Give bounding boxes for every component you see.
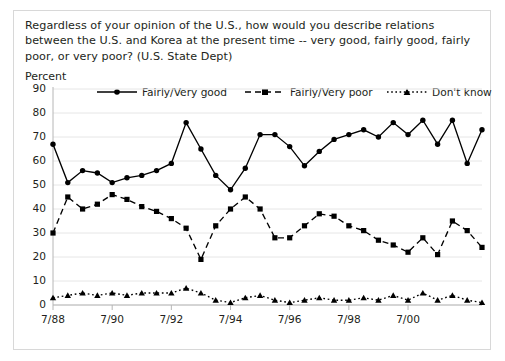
legend-label: Don't know [432, 86, 492, 98]
legend-item-dont-know: Don't know [386, 84, 492, 100]
legend-swatch-dashed-square-icon [244, 86, 286, 98]
legend-item-fairly-very-poor: Fairly/Very poor [244, 84, 373, 100]
y-axis-tick-label: 0 [24, 298, 46, 310]
x-axis-tick-label: 7/92 [151, 313, 191, 325]
x-axis-tick-label: 7/90 [92, 313, 132, 325]
y-axis-tick-label: 80 [24, 106, 46, 118]
y-axis-tick-label: 50 [24, 178, 46, 190]
x-axis-tick-label: 7/00 [388, 313, 428, 325]
legend-swatch-dotted-triangle-icon [386, 86, 428, 98]
y-axis-tick-label: 40 [24, 202, 46, 214]
legend-item-fairly-very-good: Fairly/Very good [96, 84, 227, 100]
y-axis-tick-label: 70 [24, 130, 46, 142]
question-text: Regardless of your opinion of the U.S., … [25, 18, 480, 64]
legend-label: Fairly/Very poor [290, 86, 373, 98]
x-axis-tick-label: 7/94 [211, 313, 251, 325]
x-axis-tick-label: 7/88 [33, 313, 73, 325]
x-axis-tick-label: 7/98 [329, 313, 369, 325]
y-axis-tick-label: 90 [24, 82, 46, 94]
chart-legend: Fairly/Very good Fairly/Very poor Don't … [96, 84, 486, 100]
x-axis-tick-label: 7/96 [270, 313, 310, 325]
legend-swatch-solid-circle-icon [96, 86, 138, 98]
y-axis-tick-label: 60 [24, 154, 46, 166]
legend-label: Fairly/Very good [142, 86, 227, 98]
y-axis-tick-label: 10 [24, 274, 46, 286]
y-axis-tick-label: 20 [24, 250, 46, 262]
y-axis-tick-label: 30 [24, 226, 46, 238]
